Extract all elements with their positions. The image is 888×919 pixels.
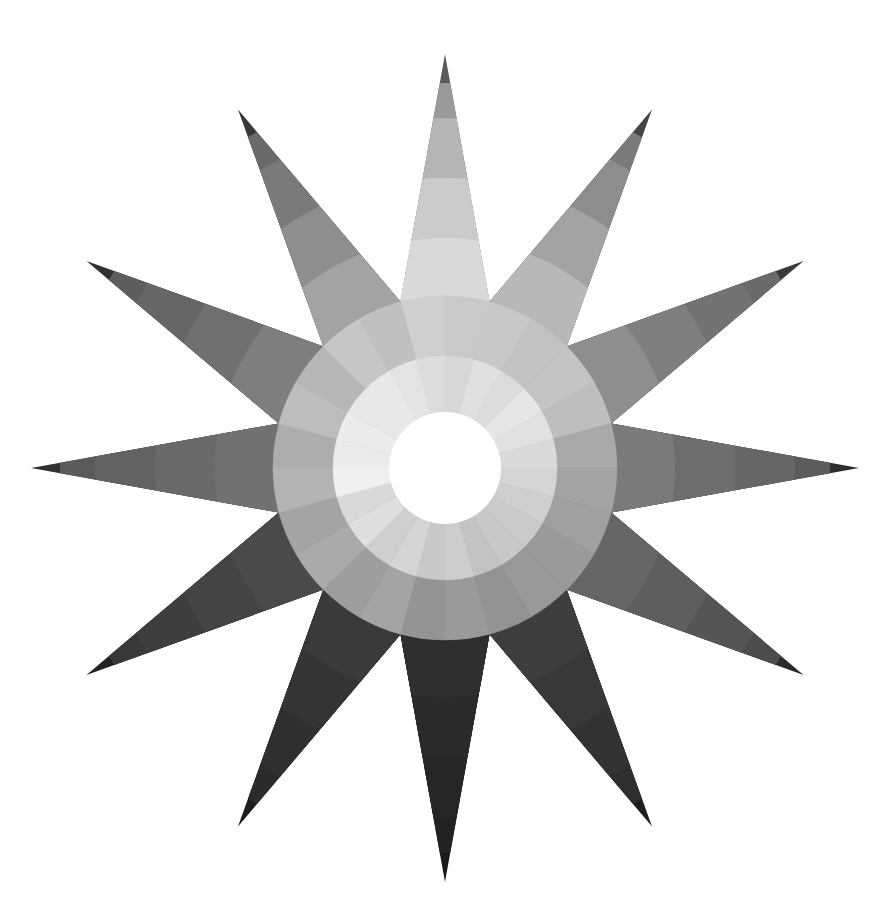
twelve-point-star-diagram (0, 0, 888, 919)
white-center-circle (389, 412, 501, 524)
color-star-figure (0, 0, 888, 919)
